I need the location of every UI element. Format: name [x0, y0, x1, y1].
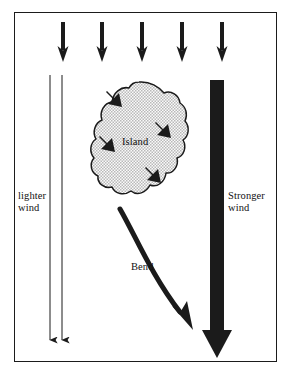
- label-island: Island: [122, 136, 148, 148]
- incoming-wind-arrows: [58, 22, 228, 62]
- incoming-wind-arrow: [58, 22, 69, 62]
- figure-canvas: lighter wind Stronger wind Island Bend: [0, 0, 292, 381]
- label-bend: Bend: [131, 261, 154, 273]
- incoming-wind-arrow: [97, 22, 108, 62]
- incoming-wind-arrow: [177, 22, 188, 62]
- incoming-wind-arrow: [137, 22, 148, 62]
- lighter-wind-lines: [50, 75, 62, 340]
- label-lighter-wind: lighter wind: [18, 190, 46, 214]
- label-stronger-wind: Stronger wind: [228, 190, 265, 214]
- stronger-wind-bar: [202, 80, 232, 358]
- incoming-wind-arrow: [217, 22, 228, 62]
